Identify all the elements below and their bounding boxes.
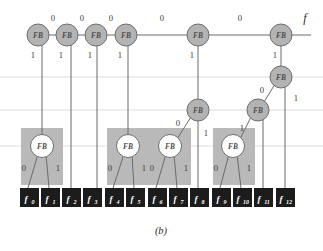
fb-node[interactable]: FB: [56, 24, 78, 46]
leaf-node[interactable]: f 9: [212, 188, 231, 207]
fb-node-label: FB: [228, 142, 238, 151]
edge-label: 1: [31, 50, 35, 60]
fb-node-label: FB: [37, 142, 47, 151]
edge-label: 0: [80, 13, 84, 23]
leaf-node[interactable]: f 5: [126, 188, 145, 207]
figure-caption: (b): [155, 225, 168, 237]
edge-label: 1: [142, 163, 146, 173]
edge-label: 0: [160, 13, 164, 23]
edge-label: 1: [273, 50, 277, 60]
edge-label: 1: [59, 50, 63, 60]
edge-label: 1: [247, 163, 251, 173]
leaf-node[interactable]: f 8: [190, 188, 209, 207]
leaf-node[interactable]: f 6: [148, 188, 167, 207]
fb-node[interactable]: FB: [270, 66, 292, 88]
leaf-label-sub: 9: [224, 199, 227, 205]
edge-label: 0: [51, 13, 55, 23]
leaf-node[interactable]: f 10: [233, 188, 252, 207]
edge-label: 0: [109, 13, 113, 23]
leaf-boxes: f 0 f 1 f 2 f 3 f 4: [20, 188, 295, 207]
edge-label: 1: [204, 128, 208, 138]
edge-label: 0: [214, 163, 218, 173]
fb-node-label: FB: [121, 31, 131, 40]
leaf-label-sub: 3: [94, 199, 98, 205]
edge-label: 1: [240, 123, 244, 133]
leaf-label-sub: 8: [202, 199, 205, 205]
fb-node[interactable]: FB: [247, 99, 269, 121]
leaf-label-sub: 6: [160, 199, 163, 205]
fb-node[interactable]: FB: [222, 135, 245, 158]
leaf-node[interactable]: f 3: [83, 188, 102, 207]
leaf-node[interactable]: f 1: [41, 188, 60, 207]
edge-label: 1: [88, 50, 92, 60]
fb-node[interactable]: FB: [117, 135, 140, 158]
leaf-label-sub: 2: [73, 199, 77, 205]
leaf-node[interactable]: f 11: [254, 188, 273, 207]
edge-label: 0: [108, 163, 112, 173]
fb-node[interactable]: FB: [187, 99, 209, 121]
edge-labels-one-top: 1 1 1 1 1 1: [31, 50, 277, 60]
output-label: f: [303, 11, 308, 25]
fb-node-label: FB: [165, 142, 175, 151]
edge-label: 0: [150, 163, 154, 173]
leaf-node[interactable]: f 12: [276, 188, 295, 207]
fb-node-label: FB: [193, 31, 203, 40]
fb-node[interactable]: FB: [159, 135, 182, 158]
leaf-label-sub: 4: [116, 199, 120, 205]
edge-labels-zero-top: 0 0 0 0 0: [51, 13, 242, 23]
leaf-node[interactable]: f 4: [105, 188, 124, 207]
fb-node-label: FB: [123, 142, 133, 151]
edge-label: 1: [184, 163, 188, 173]
fb-node[interactable]: FB: [27, 24, 49, 46]
edge-m0-m2: [264, 84, 275, 102]
fb-node[interactable]: FB: [270, 24, 292, 46]
edge-label: 0: [176, 118, 180, 128]
edge-label: 0: [238, 13, 242, 23]
leaf-label-sub: 0: [32, 199, 35, 205]
leaf-label-sub: 5: [138, 199, 141, 205]
fb-node-label: FB: [253, 106, 263, 115]
leaf-label-sub: 10: [243, 199, 249, 205]
fb-node-label: FB: [276, 31, 286, 40]
output-label-group: f: [303, 11, 308, 25]
fb-node-label: FB: [91, 31, 101, 40]
leaf-node[interactable]: f 0: [20, 188, 39, 207]
leaf-node[interactable]: f 7: [169, 188, 188, 207]
fb-node-label: FB: [33, 31, 43, 40]
edge-label: 0: [260, 85, 264, 95]
edge-label: 1: [118, 50, 122, 60]
leaf-label-sub: 11: [264, 199, 270, 205]
fb-node-label: FB: [193, 106, 203, 115]
fb-node-label: FB: [276, 73, 286, 82]
edge-label: 1: [190, 50, 194, 60]
leaf-label-sub: 12: [286, 199, 292, 205]
fb-node-label: FB: [62, 31, 72, 40]
fb-nodes-mid: FB FB FB: [187, 66, 292, 121]
binary-decision-diagram: FB FB FB FB FB FB: [0, 0, 323, 251]
edge-label: 0: [22, 163, 26, 173]
fb-node[interactable]: FB: [31, 135, 54, 158]
figure-container: FB FB FB FB FB FB: [0, 0, 323, 251]
edge-label: 1: [294, 93, 298, 103]
leaf-label-sub: 1: [53, 199, 56, 205]
fb-node[interactable]: FB: [187, 24, 209, 46]
fb-node[interactable]: FB: [115, 24, 137, 46]
edge-label: 1: [56, 163, 60, 173]
fb-node[interactable]: FB: [85, 24, 107, 46]
leaf-node[interactable]: f 2: [62, 188, 81, 207]
group-boxes: [21, 128, 255, 185]
